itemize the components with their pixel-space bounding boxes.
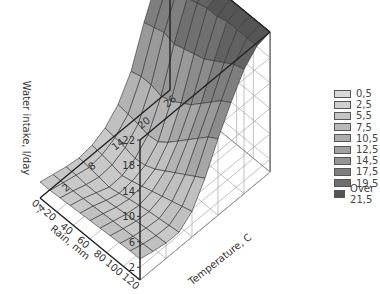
legend-label: 0,5 [356, 88, 372, 99]
legend-swatch [334, 168, 351, 176]
legend-item: 0,5 [334, 88, 380, 99]
legend-swatch [334, 157, 351, 165]
legend-item: 2,5 [334, 99, 380, 110]
z-tick-label: 6 [129, 237, 135, 248]
legend-label: 14,5 [356, 155, 378, 166]
legend-label: 12,5 [356, 144, 378, 155]
legend-label: 10,5 [356, 133, 378, 144]
legend-swatch [334, 179, 351, 187]
legend-swatch [334, 112, 351, 120]
legend-swatch [334, 101, 351, 109]
legend-item: 7,5 [334, 122, 380, 133]
legend-swatch [334, 90, 351, 98]
z-tick-label: 18 [122, 160, 135, 171]
legend-swatch [334, 146, 351, 154]
legend-label: 17,5 [356, 166, 378, 177]
temperature-axis-label: Temperature, C [185, 231, 253, 288]
legend-item: 5,5 [334, 110, 380, 121]
legend-label: Over 21,5 [350, 183, 380, 205]
legend-item: 14,5 [334, 155, 380, 166]
legend-label: 2,5 [356, 99, 372, 110]
legend-label: 5,5 [356, 110, 372, 121]
z-tick-label: 14 [122, 186, 135, 197]
legend-item: Over 21,5 [334, 189, 380, 200]
legend-item: 12,5 [334, 144, 380, 155]
legend: 0,52,55,57,510,512,514,517,519,5Over 21,… [334, 88, 380, 200]
legend-swatch [334, 123, 351, 131]
legend-swatch [334, 134, 351, 142]
legend-label: 7,5 [356, 122, 372, 133]
z-axis-label: Water intake, l/day [21, 81, 32, 175]
z-tick-label: 10 [122, 211, 135, 222]
legend-item: 10,5 [334, 133, 380, 144]
legend-item: 17,5 [334, 166, 380, 177]
legend-swatch [334, 190, 345, 198]
